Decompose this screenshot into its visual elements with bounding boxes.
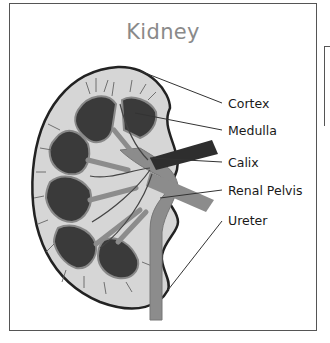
- label-calix: Calix: [228, 155, 259, 170]
- label-cortex: Cortex: [228, 96, 269, 111]
- medulla-pyramid: [49, 131, 89, 174]
- label-medulla: Medulla: [228, 123, 277, 138]
- label-ureter: Ureter: [228, 213, 267, 228]
- label-renal-pelvis: Renal Pelvis: [228, 183, 302, 198]
